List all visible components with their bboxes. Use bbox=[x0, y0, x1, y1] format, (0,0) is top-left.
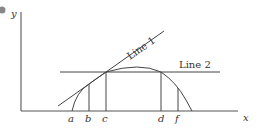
x-axis-label: x bbox=[243, 112, 249, 123]
line-2-label: Line 2 bbox=[179, 59, 211, 70]
y-axis-label: y bbox=[10, 8, 17, 19]
point-label-c: c bbox=[102, 113, 108, 124]
curve bbox=[72, 67, 192, 111]
point-label-b: b bbox=[85, 113, 91, 124]
line-1-label: Line 1 bbox=[125, 34, 157, 61]
point-label-a: a bbox=[68, 113, 74, 124]
point-label-f: f bbox=[174, 113, 181, 124]
bullet-marker bbox=[0, 7, 6, 14]
diagram: y x Line 2 Line 1 a b c d f bbox=[0, 0, 260, 129]
point-label-d: d bbox=[158, 113, 164, 124]
